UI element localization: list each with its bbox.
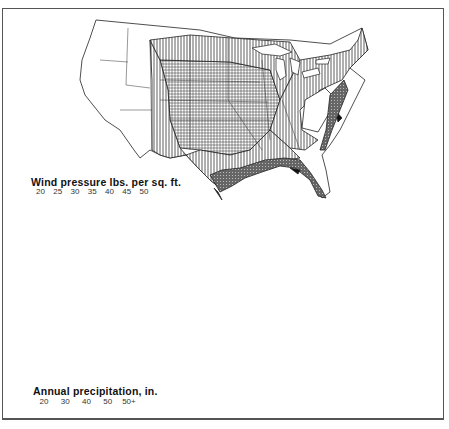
wind-tick: 30 [67,187,82,196]
precip-legend-title: Annual precipitation, in. [33,385,158,397]
wind-tick: 20 [33,187,48,196]
precip-legend-ticks: 20 30 40 50 50+ [34,397,139,406]
wind-tick: 35 [85,187,100,196]
wind-tick: 25 [50,187,65,196]
precip-tick: 50+ [119,397,139,406]
precip-tick: 50 [99,397,117,406]
precip-tick: 20 [34,397,54,406]
wind-tick: 50 [136,187,151,196]
wind-legend-ticks: 20 25 30 35 40 45 50 [33,187,151,196]
maps-canvas [0,0,449,429]
wind-pressure-map [80,20,368,200]
wind-tick: 40 [102,187,117,196]
precip-tick: 40 [76,397,96,406]
wind-tick: 45 [119,187,134,196]
precip-tick: 30 [56,397,74,406]
